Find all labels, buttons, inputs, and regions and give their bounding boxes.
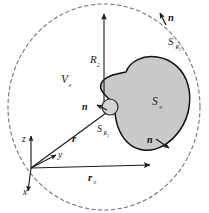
label-outer-surface-base: S xyxy=(168,35,174,47)
label-axis-z: z xyxy=(21,134,26,144)
label-blob-normal: n xyxy=(147,134,153,145)
position-vector-r0 xyxy=(31,165,150,168)
label-inner-surface-subsub: 1 xyxy=(107,133,109,138)
position-vector-r xyxy=(31,113,106,168)
label-vector-r0-base: r xyxy=(88,171,93,183)
label-vector-r0-sub: o xyxy=(94,179,97,185)
axis-x-line xyxy=(28,168,31,191)
label-outer-surface-subsub: 2 xyxy=(179,47,181,52)
label-axis-y: y xyxy=(57,150,63,160)
label-volume-sub: o xyxy=(69,82,72,88)
label-volume: V o xyxy=(61,73,72,88)
label-blob-surface-base: S xyxy=(152,95,158,107)
label-inner-normal: n xyxy=(82,101,88,112)
outer-normal-arrow xyxy=(160,13,166,25)
label-radius-R2-base: R xyxy=(89,53,97,65)
axis-y-line xyxy=(31,155,56,168)
label-inner-surface: S R 1 xyxy=(97,123,109,138)
label-inner-surface-base: S xyxy=(97,123,102,134)
label-outer-normal: n xyxy=(168,12,174,23)
label-vector-r: r xyxy=(72,132,77,144)
figure-container: S R 2 n R 2 V o n S R 1 S o n xyxy=(0,0,209,213)
diagram-canvas: S R 2 n R 2 V o n S R 1 S o n xyxy=(0,0,209,213)
label-radius-R2: R 2 xyxy=(89,53,100,68)
label-axis-x: x xyxy=(22,187,28,197)
excluded-singularity-sphere xyxy=(102,99,118,115)
label-vector-r0: r o xyxy=(88,171,97,185)
label-radius-R2-sub: 2 xyxy=(97,62,100,68)
label-blob-surface-sub: o xyxy=(160,104,163,110)
